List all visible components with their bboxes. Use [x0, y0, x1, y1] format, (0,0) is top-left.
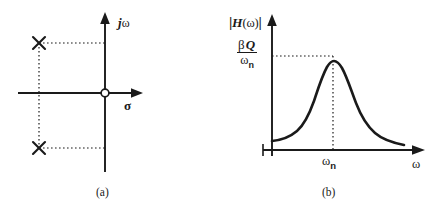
magnitude-axis-label-argument: (ω) [242, 16, 258, 30]
resonant-frequency-subscript: n [330, 160, 336, 171]
peak-magnitude-q: Q [246, 37, 256, 52]
jomega-axis-label-omega: ω [122, 16, 130, 30]
pole-zero-panel [18, 12, 143, 172]
omega-axis-label: ω [412, 158, 420, 171]
magnitude-response-curve [272, 61, 404, 145]
omega-axis-arrowhead [412, 145, 425, 155]
omega-axis [263, 145, 425, 155]
peak-magnitude-denominator: ωn [237, 53, 257, 70]
peak-magnitude-beta: β [238, 37, 246, 52]
pole-construction-lines [39, 43, 105, 148]
magnitude-axis-label-bar-right: | [258, 14, 261, 30]
response-guide-lines [272, 56, 333, 150]
sigma-axis [18, 88, 143, 98]
sigma-axis-label: σ [124, 99, 131, 112]
figure-container: jω σ |H(ω)| βQ ωn ωn ω (a) (b) [0, 0, 436, 210]
magnitude-response-panel [263, 14, 425, 156]
zero-marker-origin [101, 89, 109, 97]
resonant-frequency-omega: ω [322, 154, 330, 168]
peak-magnitude-numerator: βQ [237, 38, 257, 52]
jomega-axis-arrowhead [100, 12, 110, 24]
jomega-axis-label: jω [118, 16, 130, 29]
sigma-axis-arrowhead [131, 88, 143, 98]
magnitude-axis [267, 14, 277, 156]
caption-panel-b: (b) [322, 186, 335, 198]
magnitude-axis-label: |H(ω)| [229, 15, 261, 30]
caption-panel-a: (a) [96, 186, 109, 198]
peak-magnitude-omega-subscript: n [248, 60, 254, 70]
magnitude-axis-arrowhead [267, 14, 277, 26]
magnitude-axis-label-h: H [232, 15, 242, 30]
peak-magnitude-label: βQ ωn [237, 38, 257, 70]
figure-canvas [0, 0, 436, 210]
resonant-frequency-tick-label: ωn [322, 155, 336, 170]
